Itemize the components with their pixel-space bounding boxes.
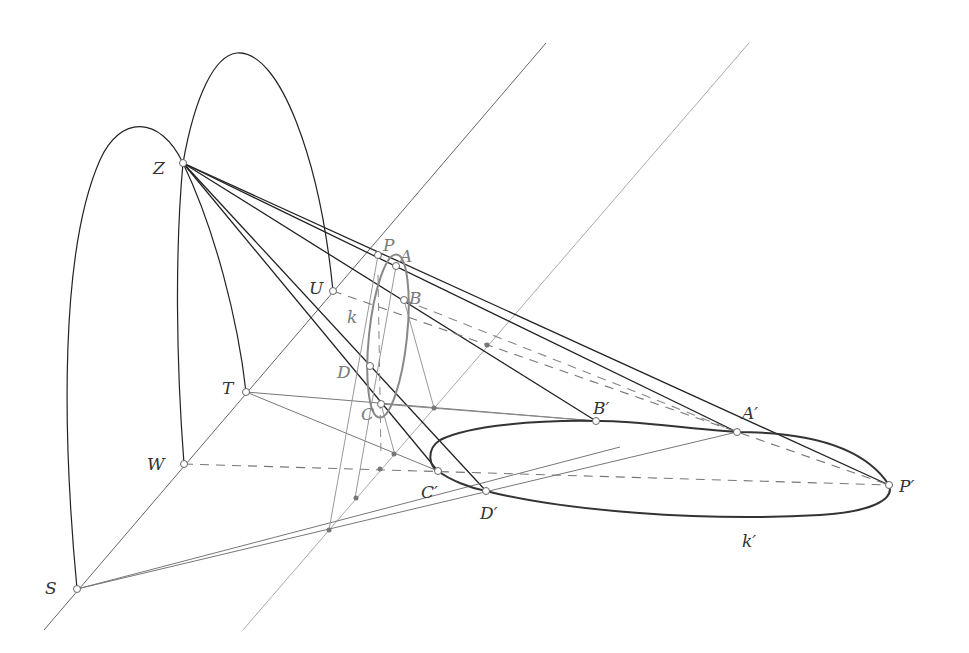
point-p-prime [886, 482, 893, 489]
intersection-dot [327, 528, 332, 533]
point-p [375, 252, 382, 259]
intersection-dot [432, 406, 437, 411]
label-d: D [336, 362, 351, 382]
label-w: W [147, 454, 166, 474]
line-s-a1 [77, 432, 737, 589]
point-t [243, 389, 250, 396]
intersection-dot [378, 467, 383, 472]
label-s: S [45, 578, 57, 598]
intersection-dot [485, 343, 490, 348]
point-w [181, 461, 188, 468]
line-p-down [329, 255, 378, 530]
ray-z-c1 [183, 163, 438, 471]
dashed-w-p1 [184, 464, 889, 485]
point-d [367, 363, 374, 370]
label-p-prime: P′ [898, 476, 914, 496]
line-a-down [355, 266, 396, 498]
intersection-dot [354, 496, 359, 501]
ray-z-d1 [183, 163, 486, 491]
point-c [378, 401, 385, 408]
point-s [74, 586, 81, 593]
label-z: Z [152, 158, 166, 178]
point-a [393, 263, 400, 270]
point-c-prime [435, 468, 442, 475]
point-b [401, 297, 408, 304]
label-u: U [309, 278, 324, 298]
ray-z-a1 [183, 163, 737, 432]
arc-s-z [67, 127, 183, 589]
point-a-prime [734, 429, 741, 436]
label-t: T [222, 378, 235, 398]
label-a: A [398, 246, 412, 266]
axis-line-main [44, 43, 546, 630]
point-b-prime [593, 418, 600, 425]
label-c-prime: C′ [421, 482, 438, 502]
label-a-prime: A′ [740, 403, 758, 423]
point-z [180, 160, 187, 167]
dashed-u-p1 [333, 291, 889, 485]
label-d-prime: D′ [479, 503, 498, 523]
arc-w-z-u [177, 53, 333, 464]
label-b-prime: B′ [592, 398, 609, 418]
label-k: k [347, 307, 357, 327]
curve-k-prime [430, 421, 890, 517]
curve-k [361, 252, 416, 419]
dashed-b-a1 [404, 300, 737, 432]
label-p: P [382, 235, 395, 255]
point-u [330, 288, 337, 295]
intersection-dot [392, 452, 397, 457]
label-c: C [361, 404, 374, 424]
label-b: B [408, 288, 422, 308]
point-d-prime [483, 488, 490, 495]
label-k-prime: k′ [742, 531, 756, 551]
projection-diagram: Z U T W S P A B D C A′ B′ C′ D′ P′ k k′ [0, 0, 969, 653]
ray-z-p1 [183, 163, 889, 485]
